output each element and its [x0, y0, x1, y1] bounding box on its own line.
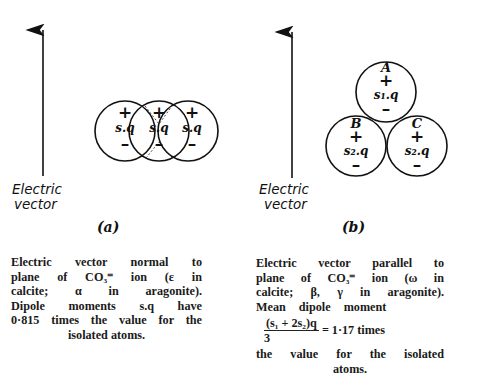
- caption-line: 0·815 times the value for the: [11, 313, 202, 328]
- electric-vector-label-b: Electric vector: [259, 182, 309, 212]
- caption-a: Electric vector normal to plane of CO₃⁼ …: [11, 255, 202, 343]
- caption-line: calcite; α in aragonite).: [11, 284, 202, 299]
- plus-sign: +: [170, 104, 214, 120]
- plus-sign: +: [332, 130, 380, 143]
- caption-line: the value for the isolated: [256, 347, 444, 362]
- fraction-numerator: (s₁ + 2s₂)q: [264, 316, 319, 331]
- electric-vector-label-a: Electric vector: [12, 182, 62, 212]
- atom-C: C + s₂.q –: [393, 118, 441, 172]
- atom-A: A + s₁.q –: [362, 62, 410, 116]
- label-line-1: Electric: [259, 182, 309, 197]
- atom-a3: + s.q –: [170, 104, 214, 152]
- fraction-denominator: 3: [264, 331, 319, 345]
- minus-sign: –: [332, 159, 380, 172]
- caption-line: plane of CO₃⁼ ion (ε in: [11, 270, 202, 285]
- label-line-2: vector: [12, 197, 62, 212]
- caption-line: Mean dipole moment: [256, 300, 444, 315]
- caption-line: Electric vector normal to: [11, 255, 202, 270]
- plus-sign: +: [393, 130, 441, 143]
- caption-line: atoms.: [256, 362, 444, 377]
- caption-line: plane of CO₃⁼ ion (ω in: [256, 271, 444, 286]
- figure-a-label: (a): [97, 219, 119, 235]
- fraction-line: (s₁ + 2s₂)q 3 = 1·17 times: [256, 314, 444, 347]
- label-line-2: vector: [259, 197, 309, 212]
- caption-line: Electric vector parallel to: [256, 256, 444, 271]
- minus-sign: –: [393, 159, 441, 172]
- minus-sign: –: [362, 103, 410, 116]
- minus-sign: –: [170, 136, 214, 152]
- label-line-1: Electric: [12, 182, 62, 197]
- caption-b: Electric vector parallel to plane of CO₃…: [256, 256, 444, 377]
- fraction-result: = 1·17 times: [322, 324, 385, 338]
- atom-B: B + s₂.q –: [332, 118, 380, 172]
- caption-line: calcite; β, γ in aragonite).: [256, 285, 444, 300]
- caption-line: isolated atoms.: [11, 328, 202, 343]
- fraction: (s₁ + 2s₂)q 3: [264, 316, 319, 345]
- caption-line: Dipole moments s.q have: [11, 299, 202, 314]
- plus-sign: +: [362, 74, 410, 87]
- figure-b-label: (b): [342, 219, 365, 235]
